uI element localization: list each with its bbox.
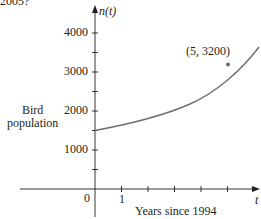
y-axis-variable: n(t) (99, 4, 116, 19)
y-axis-label: Bird population (7, 104, 58, 130)
x-tick-label-0: 0 (84, 191, 90, 206)
data-point-5-3200 (226, 63, 230, 67)
point-annotation: (5, 3200) (186, 44, 230, 59)
y-tick-label-1000: 1000 (48, 142, 88, 157)
y-tick-label-3000: 3000 (48, 64, 88, 79)
population-curve (95, 47, 259, 131)
x-axis-variable: t (255, 193, 258, 208)
y-tick-label-4000: 4000 (48, 25, 88, 40)
y-axis-arrow-icon (92, 5, 98, 13)
x-tick-label-1: 1 (119, 192, 125, 207)
x-axis-label: Years since 1994 (135, 204, 216, 219)
x-axis-arrow-icon (252, 186, 260, 192)
y-axis-label-line2: population (7, 117, 58, 130)
